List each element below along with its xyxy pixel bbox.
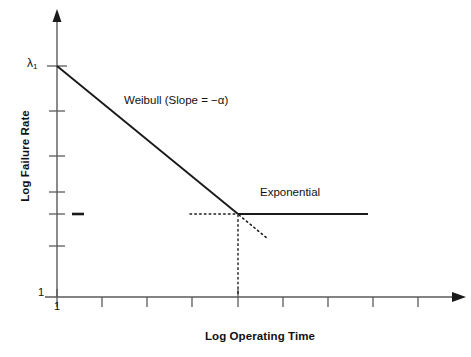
weibull-line bbox=[57, 66, 238, 214]
exponential-series-annotation: Exponential bbox=[260, 186, 320, 198]
x-axis-arrow-icon bbox=[452, 292, 466, 302]
x-axis-title: Log Operating Time bbox=[110, 330, 410, 342]
y-axis-arrow-icon bbox=[53, 9, 62, 22]
weibull-series-annotation: Weibull (Slope = −α) bbox=[124, 94, 228, 106]
chart-figure: λ1 1 1 Weibull (Slope = −α) Exponential … bbox=[0, 0, 471, 357]
lambda-subscript: 1 bbox=[33, 62, 37, 71]
weibull-extrapolation-dotted bbox=[239, 215, 268, 239]
chart-plot-area bbox=[0, 0, 471, 357]
y-axis-tick-label-lambda1: λ1 bbox=[27, 56, 37, 70]
x-axis-tick-label-one: 1 bbox=[54, 300, 60, 312]
y-axis-title: Log Failure Rate bbox=[19, 86, 31, 226]
y-axis-tick-label-one: 1 bbox=[38, 286, 44, 298]
